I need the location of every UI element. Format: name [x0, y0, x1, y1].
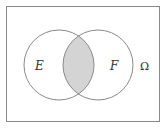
venn-diagram: E F Ω: [0, 0, 162, 128]
set-e-label: E: [34, 59, 44, 73]
set-f-label: F: [109, 59, 119, 73]
universe-label: Ω: [140, 60, 149, 73]
